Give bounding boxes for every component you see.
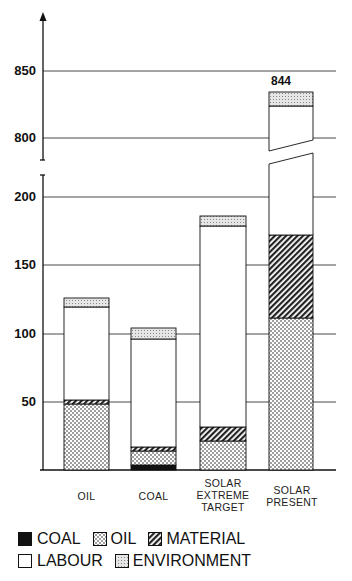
x-label-coal: COAL xyxy=(126,490,181,502)
x-label-line: PRESENT xyxy=(262,496,322,508)
y-axis xyxy=(40,20,45,470)
x-label-line: EXTREME xyxy=(190,489,256,501)
legend-label: LABOUR xyxy=(37,552,103,570)
legend-item-environment: ENVIRONMENT xyxy=(115,552,251,570)
x-label-line: TARGET xyxy=(190,501,256,513)
bar-solar-present xyxy=(269,92,313,470)
x-label-line: SOLAR xyxy=(190,477,256,489)
bar-oil xyxy=(64,298,109,470)
environment-swatch-icon xyxy=(115,554,129,568)
legend-item-material: MATERIAL xyxy=(148,530,245,548)
y-tick-200: 200 xyxy=(4,190,36,204)
y-axis-arrow-icon xyxy=(40,12,47,21)
legend-item-coal: COAL xyxy=(18,530,81,548)
y-tick-50: 50 xyxy=(4,395,36,409)
legend-label: OIL xyxy=(111,530,137,548)
y-tick-100: 100 xyxy=(4,327,36,341)
coal-swatch-icon xyxy=(18,532,32,546)
x-label-solar-present: SOLAR PRESENT xyxy=(262,484,322,508)
legend-item-labour: LABOUR xyxy=(18,552,103,570)
y-tick-800: 800 xyxy=(4,131,36,145)
legend-label: MATERIAL xyxy=(166,530,245,548)
oil-swatch-icon xyxy=(93,532,107,546)
legend-item-oil: OIL xyxy=(93,530,137,548)
stacked-bar-chart xyxy=(0,0,352,481)
y-tick-850: 850 xyxy=(4,64,36,78)
total-annotation: 844 xyxy=(271,74,291,88)
bar-coal xyxy=(131,328,176,470)
legend-label: ENVIRONMENT xyxy=(133,552,251,570)
y-tick-150: 150 xyxy=(4,258,36,272)
legend: COAL OIL MATERIAL LABOUR ENVIRONMENT xyxy=(18,528,263,572)
x-label-line: SOLAR xyxy=(262,484,322,496)
material-swatch-icon xyxy=(148,532,162,546)
x-label-oil: OIL xyxy=(64,490,109,502)
labour-swatch-icon xyxy=(18,554,32,568)
x-label-solar-extreme-target: SOLAR EXTREME TARGET xyxy=(190,477,256,513)
legend-label: COAL xyxy=(37,530,81,548)
bar-solar-extreme-target xyxy=(200,216,246,470)
